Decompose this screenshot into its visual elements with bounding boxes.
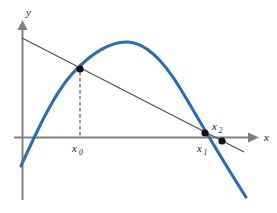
y-axis-arrowhead	[18, 20, 28, 30]
point-x0-marker	[76, 65, 83, 72]
point-x2-subscript: 2	[219, 126, 223, 135]
x-axis-arrowhead	[248, 133, 259, 143]
point-x0-label: x	[71, 142, 77, 154]
point-x1-label: x	[196, 142, 202, 154]
y-axis-label: y	[25, 6, 31, 18]
point-x2-label: x	[211, 120, 217, 132]
secant-method-figure: x 0 x 1 x 2 x y	[0, 0, 277, 213]
y-axis-group	[18, 20, 28, 200]
point-x0-subscript: 0	[79, 148, 83, 157]
figure-container: x 0 x 1 x 2 x y	[0, 0, 277, 213]
point-x1-marker	[201, 129, 208, 136]
point-x2-marker	[218, 137, 225, 144]
x-axis-label: x	[263, 131, 269, 143]
point-x1-subscript: 1	[204, 148, 208, 157]
